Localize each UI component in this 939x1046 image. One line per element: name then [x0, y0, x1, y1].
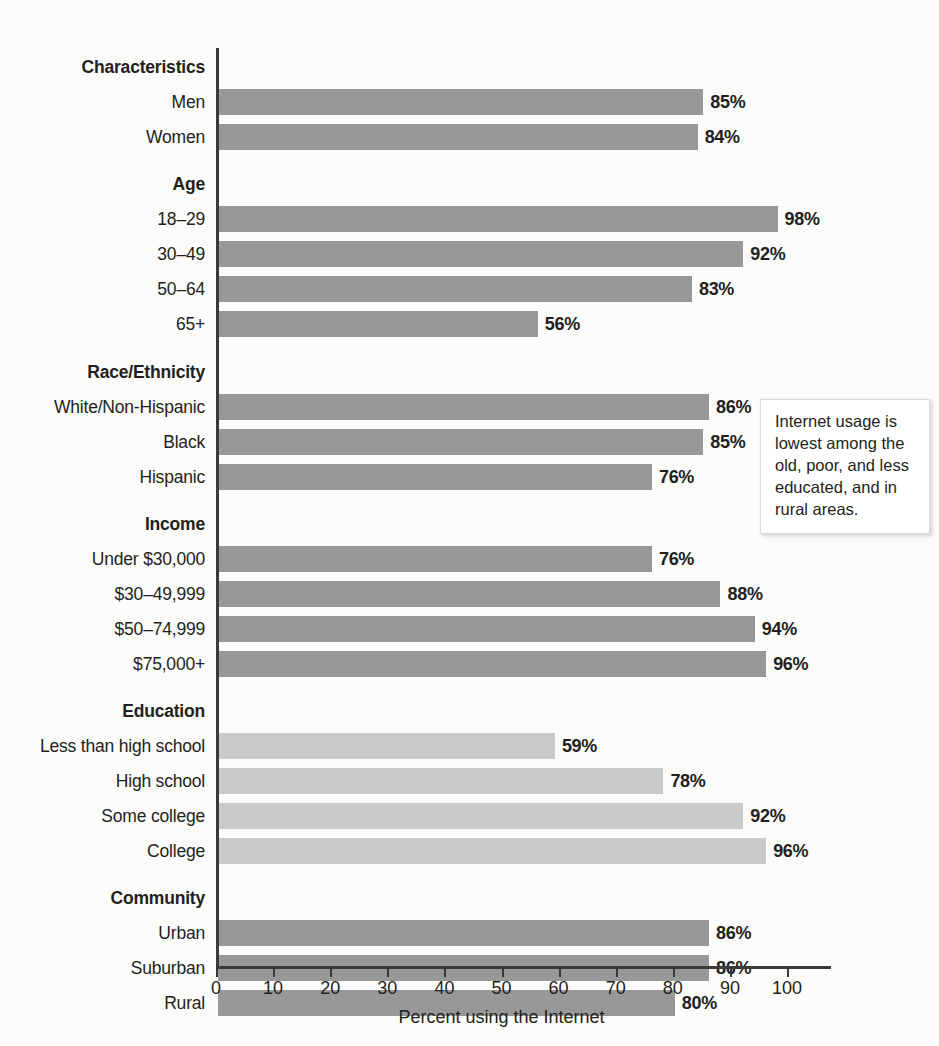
category-label: 30–49 — [6, 237, 216, 272]
bar-value-label: 83% — [699, 272, 734, 307]
x-tick-label: 0 — [186, 978, 246, 999]
category-label: Women — [6, 120, 216, 155]
category-label: Rural — [6, 986, 216, 1021]
bar-value-label: 92% — [750, 799, 785, 834]
internet-usage-bar-chart: CharacteristicsMen85%Women84%Age18–2998%… — [0, 0, 939, 1046]
bar — [218, 768, 663, 794]
y-axis-line — [216, 48, 219, 966]
category-label: Hispanic — [6, 460, 216, 495]
bar — [218, 276, 692, 302]
bar-value-label: 76% — [659, 542, 694, 577]
x-tick-label: 30 — [357, 978, 417, 999]
chart-row: 18–2998% — [0, 202, 939, 237]
group-heading-row: Age — [0, 167, 939, 202]
group-heading-row: Characteristics — [0, 50, 939, 85]
x-tick — [502, 966, 504, 977]
bar — [218, 838, 766, 864]
group-heading-row: Community — [0, 881, 939, 916]
bar — [218, 464, 652, 490]
chart-row: Under $30,00076% — [0, 542, 939, 577]
category-label: $75,000+ — [6, 647, 216, 682]
callout-annotation: Internet usage is lowest among the old, … — [760, 399, 930, 534]
bar — [218, 803, 743, 829]
bar — [218, 206, 778, 232]
x-tick-label: 10 — [243, 978, 303, 999]
bar — [218, 733, 555, 759]
x-tick-label: 100 — [757, 978, 817, 999]
bar-value-label: 56% — [545, 307, 580, 342]
bar-value-label: 86% — [716, 390, 751, 425]
x-tick-label: 40 — [414, 978, 474, 999]
bar — [218, 546, 652, 572]
group-heading-label: Characteristics — [6, 50, 216, 85]
category-label: Suburban — [6, 951, 216, 986]
bar — [218, 920, 709, 946]
x-tick-label: 70 — [586, 978, 646, 999]
x-tick — [330, 966, 332, 977]
category-label: $50–74,999 — [6, 612, 216, 647]
bar-value-label: 85% — [710, 85, 745, 120]
bar-value-label: 84% — [705, 120, 740, 155]
x-tick — [787, 966, 789, 977]
x-tick-label: 90 — [700, 978, 760, 999]
chart-row: Urban86% — [0, 916, 939, 951]
chart-row: College96% — [0, 834, 939, 869]
category-label: Less than high school — [6, 729, 216, 764]
x-tick-label: 60 — [529, 978, 589, 999]
chart-row: Men85% — [0, 85, 939, 120]
x-tick-label: 20 — [300, 978, 360, 999]
category-label: White/Non-Hispanic — [6, 390, 216, 425]
chart-row: 30–4992% — [0, 237, 939, 272]
group-heading-label: Community — [6, 881, 216, 916]
x-tick — [616, 966, 618, 977]
bar-value-label: 98% — [785, 202, 820, 237]
x-tick — [216, 966, 218, 977]
bar — [218, 651, 766, 677]
x-tick — [273, 966, 275, 977]
category-label: 65+ — [6, 307, 216, 342]
x-tick — [730, 966, 732, 977]
category-label: Under $30,000 — [6, 542, 216, 577]
category-label: 18–29 — [6, 202, 216, 237]
bar — [218, 241, 743, 267]
x-tick-label: 80 — [643, 978, 703, 999]
bar — [218, 616, 755, 642]
category-label: High school — [6, 764, 216, 799]
category-label: Urban — [6, 916, 216, 951]
category-label: Some college — [6, 799, 216, 834]
bar — [218, 89, 703, 115]
bar-value-label: 59% — [562, 729, 597, 764]
chart-row: High school78% — [0, 764, 939, 799]
category-label: $30–49,999 — [6, 577, 216, 612]
bar — [218, 124, 698, 150]
bar-value-label: 96% — [773, 834, 808, 869]
chart-row: 50–6483% — [0, 272, 939, 307]
group-heading-label: Income — [6, 507, 216, 542]
x-tick — [673, 966, 675, 977]
bar-value-label: 92% — [750, 237, 785, 272]
category-label: Men — [6, 85, 216, 120]
x-axis-line — [216, 966, 831, 969]
x-tick — [444, 966, 446, 977]
bar-value-label: 88% — [727, 577, 762, 612]
category-label: 50–64 — [6, 272, 216, 307]
x-tick — [387, 966, 389, 977]
group-heading-label: Race/Ethnicity — [6, 355, 216, 390]
chart-row: Some college92% — [0, 799, 939, 834]
group-heading-row: Race/Ethnicity — [0, 355, 939, 390]
chart-row: Less than high school59% — [0, 729, 939, 764]
bar-value-label: 78% — [670, 764, 705, 799]
chart-row: 65+56% — [0, 307, 939, 342]
x-tick-label: 50 — [472, 978, 532, 999]
x-axis-title: Percent using the Internet — [216, 1007, 787, 1028]
bar-value-label: 96% — [773, 647, 808, 682]
bar — [218, 394, 709, 420]
bar — [218, 581, 720, 607]
bar-value-label: 86% — [716, 916, 751, 951]
chart-row: $50–74,99994% — [0, 612, 939, 647]
chart-row: Women84% — [0, 120, 939, 155]
bar-value-label: 85% — [710, 425, 745, 460]
bar-value-label: 94% — [762, 612, 797, 647]
chart-row: $75,000+96% — [0, 647, 939, 682]
chart-row: $30–49,99988% — [0, 577, 939, 612]
